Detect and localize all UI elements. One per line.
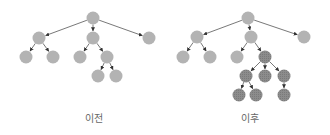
edge-arrow bbox=[101, 63, 104, 70]
tree-after bbox=[177, 12, 311, 102]
tree-node bbox=[20, 51, 33, 64]
tree-node bbox=[87, 12, 100, 25]
tree-node bbox=[87, 32, 100, 45]
tree-node bbox=[33, 32, 46, 45]
edge-arrow bbox=[241, 82, 243, 88]
edge-arrow bbox=[30, 43, 35, 51]
edge-arrow bbox=[43, 43, 49, 51]
tree-node-highlighted bbox=[259, 51, 272, 64]
edge-arrow bbox=[254, 20, 297, 35]
edge-arrow bbox=[110, 63, 113, 70]
tree-node bbox=[204, 51, 217, 64]
tree-node bbox=[47, 51, 60, 64]
tree-node bbox=[242, 12, 255, 25]
edge-arrow bbox=[251, 62, 260, 71]
tree-node-highlighted bbox=[240, 70, 253, 83]
tree-node bbox=[74, 51, 87, 64]
edge-arrow bbox=[249, 82, 253, 89]
caption-before: 이전 bbox=[64, 110, 124, 125]
edge-arrow bbox=[249, 24, 250, 30]
edge-arrow bbox=[97, 43, 103, 51]
tree-node-highlighted bbox=[233, 89, 246, 102]
tree-node bbox=[245, 31, 258, 44]
tree-node bbox=[191, 31, 204, 44]
edge-arrow bbox=[201, 42, 207, 51]
edge-arrow bbox=[255, 42, 261, 51]
tree-node bbox=[177, 51, 190, 64]
tree-node bbox=[110, 70, 123, 83]
edge-arrow bbox=[204, 20, 242, 34]
edge-arrow bbox=[270, 62, 279, 71]
edge-arrow bbox=[99, 20, 142, 35]
edge-arrow bbox=[241, 42, 247, 51]
tree-node bbox=[143, 32, 156, 45]
edge-arrow bbox=[46, 20, 87, 35]
tree-comparison-diagram bbox=[0, 0, 330, 135]
tree-node-highlighted bbox=[278, 70, 291, 83]
edge-arrow bbox=[187, 42, 193, 51]
tree-node-highlighted bbox=[278, 89, 291, 102]
caption-after: 이후 bbox=[220, 110, 280, 125]
tree-node bbox=[298, 31, 311, 44]
tree-node bbox=[101, 51, 114, 64]
edge-arrow bbox=[84, 43, 89, 51]
tree-before bbox=[20, 12, 156, 83]
tree-node bbox=[92, 70, 105, 83]
tree-node-highlighted bbox=[250, 89, 263, 102]
tree-node bbox=[231, 51, 244, 64]
tree-node-highlighted bbox=[259, 70, 272, 83]
